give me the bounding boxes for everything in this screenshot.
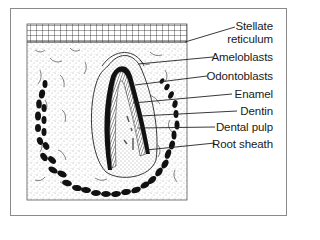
label-enamel: Enamel <box>235 88 273 101</box>
label-stellate-reticulum: Stellate reticulum <box>227 20 273 46</box>
label-odontoblasts: Odontoblasts <box>206 70 273 83</box>
oral-epithelium <box>27 24 187 42</box>
label-stellate-line1: Stellate <box>227 20 273 33</box>
label-dentin: Dentin <box>240 105 273 118</box>
label-dental-pulp: Dental pulp <box>216 121 273 134</box>
inner-panel <box>27 24 187 200</box>
label-root-sheath: Root sheath <box>212 138 273 151</box>
label-stellate-line2: reticulum <box>227 33 273 46</box>
label-ameloblasts: Ameloblasts <box>211 51 273 64</box>
